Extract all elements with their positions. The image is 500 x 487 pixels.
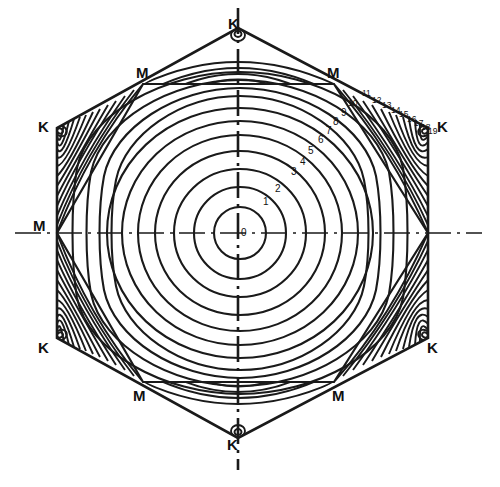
sym-label-m-lower-left: M xyxy=(133,388,146,403)
contour-level-1: 1 xyxy=(263,197,269,207)
contour-level-2: 2 xyxy=(275,184,281,194)
contour-level-0: 0 xyxy=(241,228,247,238)
sym-label-k-lower-right: K xyxy=(427,340,438,355)
contour-level-10: 10 xyxy=(348,99,357,108)
sym-label-k-upper-right: K xyxy=(437,119,448,134)
contour-level-19: 19 xyxy=(428,127,437,136)
contour-level-3: 3 xyxy=(291,167,297,177)
sym-label-k-top: K xyxy=(228,16,239,31)
contour-level-6: 6 xyxy=(318,135,324,145)
sym-label-k-lower-left: K xyxy=(38,340,49,355)
contour-level-8: 8 xyxy=(333,117,339,127)
contour-level-9: 9 xyxy=(341,108,347,118)
contour-plot-svg xyxy=(0,0,500,487)
sym-label-k-upper-left: K xyxy=(38,119,49,134)
axis-lines xyxy=(15,8,482,470)
sym-label-m-left: M xyxy=(33,218,46,233)
sym-label-m-lower-right: M xyxy=(332,388,345,403)
contour-level-12: 12 xyxy=(372,96,381,105)
contour-level-4: 4 xyxy=(300,157,306,167)
sym-label-k-bottom: K xyxy=(227,437,238,452)
contour-level-7: 7 xyxy=(326,126,332,136)
sym-label-m-upper-left: M xyxy=(136,65,149,80)
contour-level-5: 5 xyxy=(308,146,314,156)
contour-level-11: 11 xyxy=(362,89,371,98)
sym-label-m-upper-right: M xyxy=(327,65,340,80)
contour-figure: K K K K K K M M M M M 0 1 2 3 4 5 6 7 8 … xyxy=(0,0,500,487)
